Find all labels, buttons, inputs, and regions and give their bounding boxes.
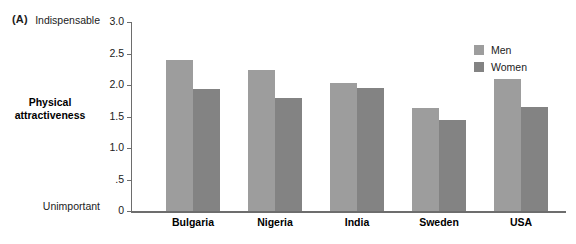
bar-group: India: [330, 22, 384, 211]
y-tick-label: 1.5: [98, 110, 124, 122]
axis-anchor-high: Indispensable: [0, 14, 100, 26]
x-axis-line: [131, 211, 566, 213]
bar-india-women: [357, 88, 384, 211]
bar-group: Sweden: [412, 22, 466, 211]
legend-item-women: Women: [474, 59, 527, 74]
x-axis-label-nigeria: Nigeria: [235, 216, 315, 228]
bar-nigeria-men: [248, 70, 275, 211]
y-tick-label: 3.0: [98, 15, 124, 27]
figure-panel-a: (A) Indispensable Unimportant Physical a…: [0, 0, 576, 244]
y-axis-title: Physical attractiveness: [0, 96, 100, 121]
bar-sweden-women: [439, 120, 466, 211]
x-axis-label-india: India: [317, 216, 397, 228]
legend-label: Men: [491, 44, 511, 56]
legend-swatch-men-icon: [474, 45, 484, 55]
legend: MenWomen: [474, 42, 527, 76]
y-tick-mark: [127, 117, 131, 118]
x-axis-label-usa: USA: [481, 216, 561, 228]
y-tick-label: 2.0: [98, 78, 124, 90]
legend-swatch-women-icon: [474, 62, 484, 72]
bar-bulgaria-men: [166, 60, 193, 211]
bar-group: Nigeria: [248, 22, 302, 211]
y-axis-title-line1: Physical: [29, 96, 72, 108]
y-tick-mark: [127, 22, 131, 23]
x-axis-label-bulgaria: Bulgaria: [153, 216, 233, 228]
legend-label: Women: [491, 61, 527, 73]
bar-sweden-men: [412, 108, 439, 211]
y-tick-mark: [127, 180, 131, 181]
y-tick-mark: [127, 211, 131, 212]
axis-anchor-low: Unimportant: [0, 200, 100, 212]
y-tick-mark: [127, 148, 131, 149]
y-tick-label: 2.5: [98, 47, 124, 59]
y-axis-line: [131, 22, 132, 211]
y-tick-label: 1.0: [98, 141, 124, 153]
y-tick-label: 0: [98, 204, 124, 216]
bar-usa-women: [521, 107, 548, 211]
y-tick-mark: [127, 54, 131, 55]
legend-item-men: Men: [474, 42, 527, 57]
bar-nigeria-women: [275, 98, 302, 211]
y-axis-title-line2: attractiveness: [15, 109, 86, 121]
bar-group: Bulgaria: [166, 22, 220, 211]
y-tick-mark: [127, 85, 131, 86]
y-tick-label: .5: [98, 173, 124, 185]
x-axis-label-sweden: Sweden: [399, 216, 479, 228]
bar-usa-men: [494, 79, 521, 211]
bar-india-men: [330, 83, 357, 211]
bar-bulgaria-women: [193, 89, 220, 211]
